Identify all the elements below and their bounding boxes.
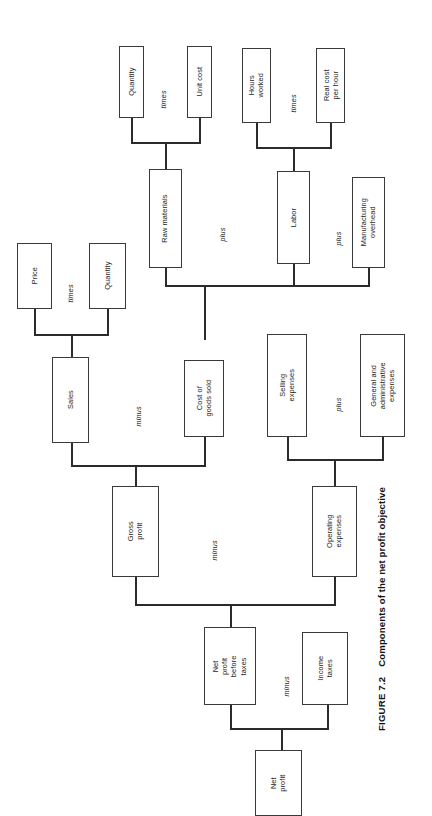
connector-quantity-materials bbox=[131, 118, 133, 143]
node-cost-of-goods-sold[interactable]: Cost of goods sold bbox=[184, 360, 224, 437]
connector-materials-stem bbox=[165, 142, 167, 169]
connector-gross-bus bbox=[71, 465, 206, 467]
node-hours-worked[interactable]: Hours worked bbox=[242, 48, 271, 123]
connector-net-profit-bus bbox=[230, 728, 329, 730]
node-net-profit-label: Net profit bbox=[269, 774, 287, 791]
operator-gross-minus-operating: minus bbox=[200, 524, 228, 540]
node-net-profit-before-taxes-label: Net profit before taxes bbox=[212, 655, 249, 677]
node-unit-cost-label: Unit cost bbox=[195, 67, 204, 97]
node-income-taxes[interactable]: Income taxes bbox=[302, 632, 348, 705]
node-quantity-materials-label: Quantity bbox=[127, 68, 136, 96]
operator-sales-times: times bbox=[58, 268, 82, 284]
connector-npbt-bus bbox=[135, 604, 336, 606]
node-operating-expenses-label: Operating expenses bbox=[325, 515, 343, 548]
connector-unit-cost bbox=[199, 118, 201, 143]
node-raw-materials-label: Raw materials bbox=[161, 194, 170, 242]
connector-labor-stem bbox=[293, 147, 295, 171]
figure-number: FIGURE 7.2 bbox=[376, 677, 387, 731]
operator-sales-minus-cogs: minus bbox=[124, 390, 152, 406]
connector-npbt-stem bbox=[230, 604, 232, 627]
node-hours-worked-label: Hours worked bbox=[247, 73, 265, 97]
node-real-cost-per-hour[interactable]: Real cost per hour bbox=[316, 48, 345, 123]
connector-npbt-out bbox=[230, 705, 232, 729]
operator-selling-plus-admin: plus bbox=[327, 378, 349, 394]
connector-income-taxes-out bbox=[327, 705, 329, 729]
node-price-label: Price bbox=[30, 267, 39, 284]
node-quantity-sales[interactable]: Quantity bbox=[89, 243, 126, 309]
operator-npbt-minus-taxes: minus bbox=[272, 660, 300, 676]
connector-labor-out bbox=[293, 264, 295, 286]
node-gross-profit-label: Gross profit bbox=[126, 521, 144, 541]
node-net-profit[interactable]: Net profit bbox=[255, 750, 302, 816]
node-manufacturing-overhead-label: Manufacturing overhead bbox=[359, 198, 377, 246]
connector-net-profit-stem bbox=[281, 728, 283, 750]
connector-hours-worked bbox=[256, 123, 258, 148]
connector-selling-out bbox=[287, 437, 289, 460]
figure-caption-text: Components of the net profit objective bbox=[376, 487, 387, 667]
connector-sales-stem bbox=[71, 334, 73, 357]
node-quantity-materials[interactable]: Quantity bbox=[119, 46, 144, 118]
node-labor-label: Labor bbox=[289, 208, 298, 227]
operator-labor-plus-overhead: plus bbox=[327, 212, 349, 228]
connector-operating-expenses-out bbox=[334, 577, 336, 605]
node-income-taxes-label: Income taxes bbox=[316, 656, 334, 681]
node-raw-materials[interactable]: Raw materials bbox=[149, 169, 182, 268]
connector-cogs-stem bbox=[204, 285, 206, 340]
node-general-admin-expenses-label: General and administrative expenses bbox=[369, 362, 397, 409]
node-quantity-sales-label: Quantity bbox=[103, 262, 112, 290]
connector-overhead-out bbox=[368, 268, 370, 286]
node-manufacturing-overhead[interactable]: Manufacturing overhead bbox=[352, 177, 385, 268]
connector-gross-stem bbox=[135, 465, 137, 486]
node-operating-expenses[interactable]: Operating expenses bbox=[312, 486, 357, 577]
node-price[interactable]: Price bbox=[17, 243, 52, 309]
connector-operating-stem bbox=[334, 459, 336, 486]
node-gross-profit[interactable]: Gross profit bbox=[112, 486, 159, 577]
node-net-profit-before-taxes[interactable]: Net profit before taxes bbox=[204, 627, 256, 705]
node-unit-cost[interactable]: Unit cost bbox=[187, 46, 212, 118]
operator-labor-times: times bbox=[281, 78, 305, 94]
operator-materials-times: times bbox=[151, 74, 175, 90]
node-cost-of-goods-sold-label: Cost of goods sold bbox=[195, 380, 213, 417]
connector-cogs-bus bbox=[165, 285, 370, 287]
operator-materials-plus-labor: plus bbox=[211, 208, 233, 224]
connector-sales-out bbox=[71, 443, 73, 466]
connector-cogs-out bbox=[204, 437, 206, 466]
connector-price-out bbox=[34, 309, 36, 335]
figure-caption: FIGURE 7.2Components of the net profit o… bbox=[372, 452, 392, 782]
node-selling-expenses-label: Selling expenses bbox=[278, 369, 296, 401]
connector-quantity-sales-out bbox=[107, 309, 109, 335]
connector-gross-profit-out bbox=[135, 577, 137, 605]
node-real-cost-per-hour-label: Real cost per hour bbox=[321, 70, 339, 102]
connector-real-cost bbox=[330, 123, 332, 148]
node-sales-label: Sales bbox=[66, 390, 75, 409]
node-labor[interactable]: Labor bbox=[277, 171, 310, 264]
connector-raw-materials-out bbox=[165, 268, 167, 286]
node-selling-expenses[interactable]: Selling expenses bbox=[267, 334, 307, 437]
node-sales[interactable]: Sales bbox=[52, 357, 89, 443]
node-general-admin-expenses[interactable]: General and administrative expenses bbox=[360, 334, 405, 437]
